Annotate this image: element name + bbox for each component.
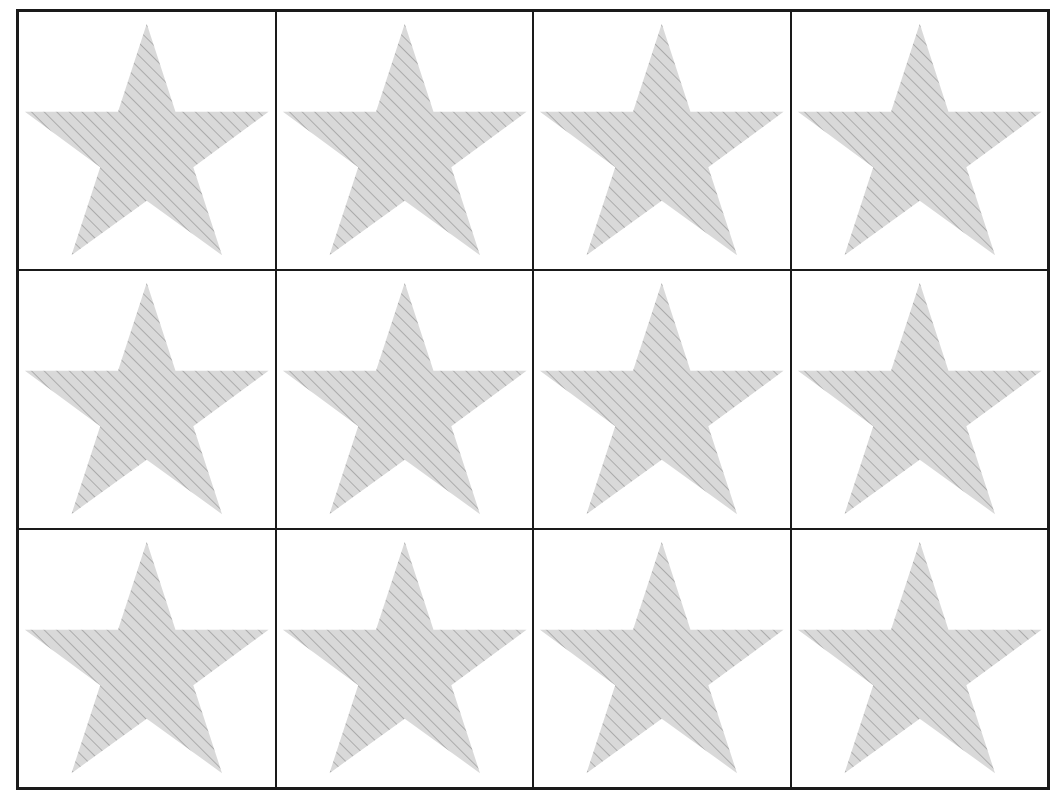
- star-icon: [534, 12, 790, 269]
- grid-cell: [276, 270, 534, 529]
- grid-cell: [791, 529, 1049, 788]
- star-icon: [534, 271, 790, 528]
- star-icon: [19, 530, 275, 787]
- grid-cell: [18, 11, 276, 270]
- grid-cell: [791, 270, 1049, 529]
- grid-cell: [533, 11, 791, 270]
- grid-cell: [533, 270, 791, 529]
- star-icon: [534, 530, 790, 787]
- grid-cell: [276, 529, 534, 788]
- star-icon: [277, 271, 533, 528]
- grid-cell: [533, 529, 791, 788]
- star-icon: [792, 12, 1048, 269]
- grid-cell: [276, 11, 534, 270]
- grid-cell: [18, 529, 276, 788]
- star-grid: [16, 9, 1050, 790]
- star-icon: [19, 12, 275, 269]
- star-icon: [792, 271, 1048, 528]
- star-icon: [19, 271, 275, 528]
- star-icon: [792, 530, 1048, 787]
- grid-cell: [791, 11, 1049, 270]
- grid-cell: [18, 270, 276, 529]
- star-icon: [277, 12, 533, 269]
- star-icon: [277, 530, 533, 787]
